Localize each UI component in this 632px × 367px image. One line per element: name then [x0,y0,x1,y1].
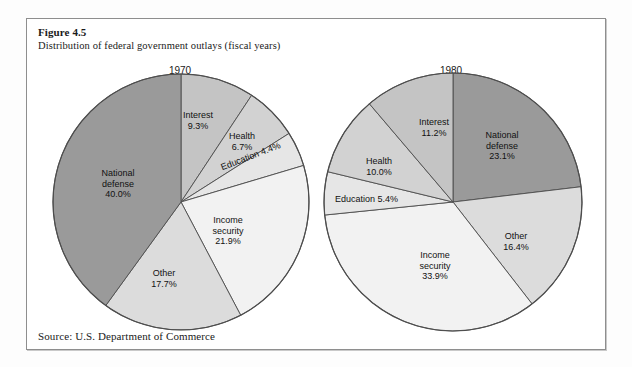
slice-label-1980-national-defense: Nationaldefense23.1% [470,130,534,162]
source-note: Source: U.S. Department of Commerce [38,330,215,342]
slice-label-1980-other: Other16.4% [492,231,540,252]
slice-label-1970-interest: Interest9.3% [172,110,224,131]
slice-label-1980-interest: Interest11.2% [408,117,460,138]
figure-page: Figure 4.5 Distribution of federal gover… [0,0,632,367]
figure-subtitle: Distribution of federal government outla… [38,40,280,51]
slice-label-1980-health: Health10.0% [355,156,403,177]
slice-label-1970-other: Other17.7% [139,268,189,289]
slice-label-1970-income-security: Incomesecurity21.9% [199,215,257,247]
slice-label-1980-income-security: Incomesecurity33.9% [406,250,464,282]
figure-number: Figure 4.5 [38,26,86,38]
slice-label-1980-education: Education 5.4% [335,194,427,205]
slice-label-1970-national-defense: Nationaldefense40.0% [86,168,150,200]
